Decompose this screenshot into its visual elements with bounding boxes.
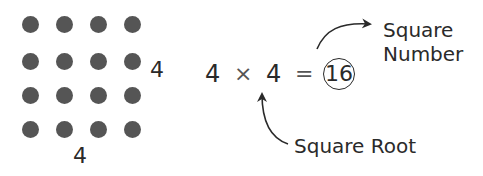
- dot: [22, 121, 39, 138]
- dot: [56, 16, 73, 33]
- dot: [56, 87, 73, 104]
- square-number-line2: Number: [383, 42, 463, 66]
- left-operand: 4: [205, 62, 220, 86]
- dot-grid: [0, 0, 180, 176]
- dot: [124, 53, 141, 70]
- dot: [22, 53, 39, 70]
- dot: [90, 53, 107, 70]
- multiply-operator: ×: [234, 63, 252, 85]
- dot: [56, 53, 73, 70]
- dot: [22, 87, 39, 104]
- dot: [124, 87, 141, 104]
- dot: [124, 121, 141, 138]
- right-operand: 4: [266, 62, 281, 86]
- square-number-annotation: Square Number: [383, 18, 463, 66]
- dot: [90, 121, 107, 138]
- square-root-arrow: [262, 94, 288, 144]
- bottom-length-label: 4: [73, 145, 87, 167]
- dot: [90, 87, 107, 104]
- square-root-annotation: Square Root: [294, 134, 416, 158]
- dot: [124, 16, 141, 33]
- circled-result: 16: [323, 58, 355, 90]
- square-number-line1: Square: [383, 18, 463, 42]
- dot: [56, 121, 73, 138]
- dot: [90, 16, 107, 33]
- square-number-arrow: [317, 24, 370, 49]
- equation: 4 × 4 = 16: [205, 58, 355, 90]
- equals-sign: =: [295, 63, 313, 85]
- dot: [22, 16, 39, 33]
- side-length-label: 4: [150, 59, 164, 81]
